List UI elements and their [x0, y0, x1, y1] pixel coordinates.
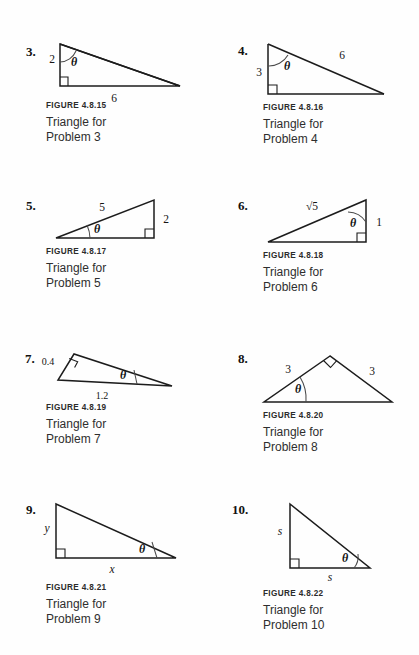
label-hypotenuse: √5: [306, 200, 318, 212]
label-leg-vertical: 1: [376, 216, 382, 228]
caption-line-1: Triangle for: [263, 603, 324, 619]
caption-line-1: Triangle for: [263, 425, 324, 441]
problem-cell-10: 10. s s θ FIGURE 4.8.22 Triangle for Pro…: [210, 492, 419, 655]
caption-line-1: Triangle for: [263, 265, 324, 281]
triangle-figure-7: 0.4 1.2 θ: [40, 346, 195, 404]
figure-id: FIGURE 4.8.16: [263, 100, 324, 116]
right-angle-marker: [324, 361, 337, 368]
triangle-hypotenuse: [60, 44, 180, 86]
caption-line-2: Problem 4: [263, 132, 324, 148]
angle-tick: [152, 542, 157, 558]
label-theta: θ: [94, 222, 101, 236]
figure-id: FIGURE 4.8.21: [46, 580, 107, 596]
triangle-outline: [58, 354, 172, 386]
figure-caption-5: FIGURE 4.8.17 Triangle for Problem 5: [46, 244, 107, 292]
label-theta: θ: [284, 59, 291, 73]
right-angle-marker: [145, 229, 154, 238]
caption-line-1: Triangle for: [46, 115, 107, 131]
figure-caption-10: FIGURE 4.8.22 Triangle for Problem 10: [263, 586, 324, 634]
problem-number: 9.: [26, 503, 36, 516]
triangle-figure-5: 5 2 θ: [50, 190, 200, 252]
problem-number: 5.: [26, 199, 36, 212]
caption-line-1: Triangle for: [46, 597, 107, 613]
figure-id: FIGURE 4.8.18: [263, 248, 324, 264]
triangle-figure-6: √5 1 θ: [254, 190, 409, 256]
figure-caption-9: FIGURE 4.8.21 Triangle for Problem 9: [46, 580, 107, 628]
problem-number: 7.: [25, 352, 35, 365]
triangle-outline: [264, 356, 392, 402]
label-hypotenuse: 5: [99, 201, 105, 213]
label-base: x: [108, 563, 115, 575]
label-hypotenuse: 6: [339, 49, 345, 61]
right-angle-marker: [56, 549, 65, 558]
right-angle-marker: [60, 77, 68, 86]
right-angle-marker: [290, 559, 299, 568]
triangle-figure-8: 3 3 θ: [254, 346, 409, 412]
caption-line-2: Problem 6: [263, 280, 324, 296]
problem-cell-9: 9. y x θ FIGURE 4.8.21 Triangle for Prob…: [0, 492, 209, 655]
right-angle-marker: [357, 233, 366, 242]
label-leg-vertical: 2: [163, 213, 169, 225]
problem-cell-4: 4. 3 6 θ FIGURE 4.8.16 Triangle for Prob…: [210, 20, 419, 183]
label-leg-vertical: s: [278, 525, 283, 537]
angle-tick: [134, 370, 137, 384]
label-theta: θ: [139, 542, 146, 556]
label-theta: θ: [295, 382, 302, 396]
label-base: s: [328, 571, 333, 583]
label-theta: θ: [342, 551, 349, 565]
label-leg-left: 0.4: [42, 356, 55, 367]
problem-cell-8: 8. 3 3 θ FIGURE 4.8.20 Triangle for Prob…: [210, 338, 419, 501]
caption-line-2: Problem 8: [263, 440, 324, 456]
label-base: 6: [111, 92, 117, 104]
problem-number: 3.: [26, 45, 36, 58]
figure-caption-8: FIGURE 4.8.20 Triangle for Problem 8: [263, 408, 324, 456]
problem-number: 6.: [238, 199, 248, 212]
caption-line-1: Triangle for: [46, 417, 107, 433]
caption-line-1: Triangle for: [46, 261, 107, 277]
caption-line-2: Problem 5: [46, 276, 107, 292]
angle-arc: [87, 225, 90, 238]
label-side-right: 3: [369, 365, 375, 377]
problem-cell-7: 7. 0.4 1.2 θ FIGURE 4.8.19 Triangle for …: [0, 338, 209, 501]
triangle-outline: [56, 200, 154, 238]
figure-caption-6: FIGURE 4.8.18 Triangle for Problem 6: [263, 248, 324, 296]
triangle-figure-10: s s θ: [254, 496, 404, 580]
caption-line-2: Problem 3: [46, 130, 107, 146]
figure-caption-4: FIGURE 4.8.16 Triangle for Problem 4: [263, 100, 324, 148]
figure-id: FIGURE 4.8.17: [46, 244, 107, 260]
caption-line-2: Problem 10: [263, 618, 324, 634]
problem-number: 8.: [238, 352, 248, 365]
label-side-left: 3: [285, 363, 291, 375]
problem-cell-6: 6. √5 1 θ FIGURE 4.8.18 Triangle for Pro…: [210, 178, 419, 341]
figure-id: FIGURE 4.8.22: [263, 586, 324, 602]
figure-id: FIGURE 4.8.20: [263, 408, 324, 424]
figure-id: FIGURE 4.8.19: [46, 400, 107, 416]
triangle-figure-9: y x θ: [44, 496, 194, 574]
caption-line-1: Triangle for: [263, 117, 324, 133]
label-leg-vertical: 2: [49, 53, 55, 65]
label-theta: θ: [71, 55, 78, 69]
problem-number: 10.: [232, 503, 248, 516]
figure-sheet: 3. 2 6 θ FIGURE 4.8.15 Triangle for Prob…: [0, 0, 419, 655]
figure-caption-3: FIGURE 4.8.15 Triangle for Problem 3: [46, 98, 107, 146]
label-theta: θ: [120, 368, 127, 382]
problem-cell-3: 3. 2 6 θ FIGURE 4.8.15 Triangle for Prob…: [0, 20, 209, 183]
caption-line-2: Problem 9: [46, 612, 107, 628]
label-leg-vertical: y: [43, 522, 50, 535]
figure-caption-7: FIGURE 4.8.19 Triangle for Problem 7: [46, 400, 107, 448]
label-theta: θ: [350, 216, 357, 230]
caption-line-2: Problem 7: [46, 432, 107, 448]
figure-id: FIGURE 4.8.15: [46, 98, 107, 114]
problem-cell-5: 5. 5 2 θ FIGURE 4.8.17 Triangle for Prob…: [0, 178, 209, 341]
triangle-outline: [56, 504, 176, 558]
problem-number: 4.: [238, 44, 248, 57]
label-leg-vertical: 3: [256, 66, 262, 78]
right-angle-marker: [268, 85, 277, 94]
